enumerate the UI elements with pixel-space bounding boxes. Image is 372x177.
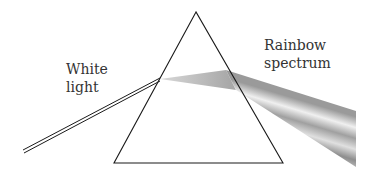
prism-diagram	[0, 0, 372, 177]
rainbow-spectrum-label: Rainbow spectrum	[264, 36, 331, 72]
rainbow-line2: spectrum	[264, 54, 331, 72]
rainbow-beam	[226, 70, 356, 167]
internal-beam	[160, 70, 236, 90]
white-light-line2: light	[66, 78, 108, 96]
white-light-label: White light	[66, 60, 108, 96]
white-light-line1: White	[66, 60, 108, 78]
rainbow-line1: Rainbow	[264, 36, 331, 54]
